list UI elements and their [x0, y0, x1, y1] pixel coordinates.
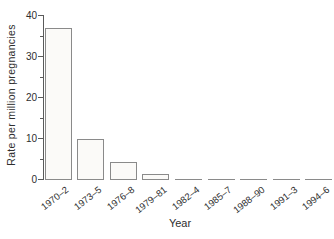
bar	[45, 28, 72, 180]
y-minor-tick	[40, 118, 43, 119]
x-tick-label: 1976–8	[104, 184, 136, 212]
x-tick-label: 1982–4	[169, 184, 201, 212]
category-baseline-dash	[305, 179, 332, 180]
category-baseline-dash	[273, 179, 300, 180]
y-major-tick	[38, 15, 44, 16]
category-baseline-dash	[240, 179, 267, 180]
y-tick-label: 30	[15, 51, 37, 62]
category-baseline-dash	[208, 179, 235, 180]
x-tick-label: 1970–2	[39, 184, 71, 212]
x-tick-label: 1985–7	[202, 184, 234, 212]
y-major-tick	[38, 179, 44, 180]
bar	[77, 139, 104, 180]
x-tick-label: 1991–3	[267, 184, 299, 212]
x-tick-label: 1988–90	[230, 184, 266, 215]
y-major-tick	[38, 138, 44, 139]
y-tick-label: 40	[15, 10, 37, 21]
bar	[142, 174, 169, 180]
y-tick-label: 20	[15, 92, 37, 103]
bar	[110, 162, 137, 180]
y-minor-tick	[40, 159, 43, 160]
category-baseline-dash	[175, 179, 202, 180]
x-tick-label: 1994–6	[300, 184, 332, 212]
x-axis-title: Year	[150, 217, 210, 229]
y-major-tick	[38, 56, 44, 57]
y-minor-tick	[40, 77, 43, 78]
y-minor-tick	[40, 36, 43, 37]
x-tick-label: 1979–81	[133, 184, 169, 215]
y-tick-label: 0	[15, 174, 37, 185]
bar-chart: Rate per million pregnancies Year 010203…	[0, 0, 334, 239]
y-major-tick	[38, 97, 44, 98]
x-tick-label: 1973–5	[72, 184, 104, 212]
y-tick-label: 10	[15, 133, 37, 144]
